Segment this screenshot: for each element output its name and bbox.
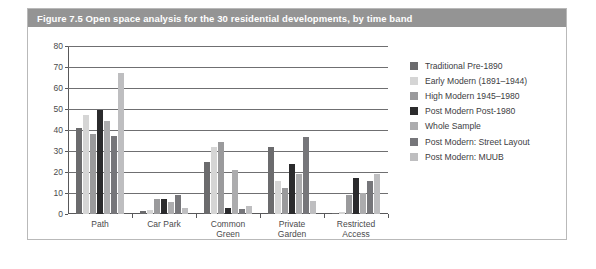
bar xyxy=(83,115,89,214)
bar xyxy=(104,121,110,214)
legend-item: Traditional Pre-1890 xyxy=(410,58,560,73)
legend-item: Early Modern (1891–1944) xyxy=(410,73,560,88)
bar xyxy=(367,181,373,214)
y-tick-label: 40 xyxy=(54,125,63,135)
bar-group xyxy=(324,46,388,214)
legend-item: High Modern 1945–1980 xyxy=(410,88,560,103)
bar-group xyxy=(132,46,196,214)
x-tick-mark xyxy=(196,214,197,218)
x-tick-mark xyxy=(388,214,389,218)
legend-swatch-icon xyxy=(410,138,418,146)
bar xyxy=(246,206,252,214)
y-tick-label: 0 xyxy=(58,209,63,219)
figure-title: Figure 7.5 Open space analysis for the 3… xyxy=(28,13,412,24)
bar xyxy=(218,142,224,214)
bar xyxy=(353,178,359,214)
legend-label: High Modern 1945–1980 xyxy=(425,91,520,101)
bar xyxy=(211,147,217,214)
x-tick-mark xyxy=(260,214,261,218)
chart-legend: Traditional Pre-1890Early Modern (1891–1… xyxy=(410,58,560,164)
legend-label: Traditional Pre-1890 xyxy=(425,61,503,71)
bar xyxy=(360,193,366,214)
bar xyxy=(147,210,153,214)
legend-label: Whole Sample xyxy=(425,121,481,131)
bar-group xyxy=(68,46,132,214)
y-tick-label: 50 xyxy=(54,104,63,114)
bar xyxy=(111,136,117,214)
x-category-label: Private Garden xyxy=(257,219,327,239)
bar xyxy=(310,201,316,214)
legend-swatch-icon xyxy=(410,62,418,70)
bar xyxy=(154,199,160,214)
legend-item: Post Modern Post-1980 xyxy=(410,104,560,119)
bar xyxy=(76,128,82,214)
y-tick-label: 70 xyxy=(54,62,63,72)
bar xyxy=(90,134,96,214)
legend-item: Whole Sample xyxy=(410,119,560,134)
figure-container: Figure 7.5 Open space analysis for the 3… xyxy=(27,8,567,240)
bar-group xyxy=(196,46,260,214)
bar xyxy=(332,213,338,214)
x-tick-mark xyxy=(132,214,133,218)
legend-swatch-icon xyxy=(410,153,418,161)
y-tick-label: 20 xyxy=(54,167,63,177)
x-category-label: Car Park xyxy=(129,219,199,229)
bar xyxy=(232,170,238,214)
legend-swatch-icon xyxy=(410,122,418,130)
legend-swatch-icon xyxy=(410,107,418,115)
y-tick-mark xyxy=(65,214,68,215)
x-category-label: Restricted Access xyxy=(321,219,391,239)
legend-label: Post Modern: MUUB xyxy=(425,152,504,162)
bar xyxy=(282,188,288,214)
bar xyxy=(161,199,167,214)
bar xyxy=(296,174,302,214)
bar xyxy=(140,211,146,214)
bar xyxy=(168,202,174,214)
y-tick-label: 10 xyxy=(54,188,63,198)
x-category-label: Path xyxy=(65,219,135,229)
bar xyxy=(346,195,352,214)
bar xyxy=(204,162,210,215)
legend-item: Post Modern: MUUB xyxy=(410,149,560,164)
bar xyxy=(175,195,181,214)
legend-label: Post Modern Post-1980 xyxy=(425,106,515,116)
chart-region: 01020304050607080 PathCar ParkCommon Gre… xyxy=(28,27,566,240)
bar xyxy=(225,208,231,214)
bar xyxy=(275,181,281,214)
bar xyxy=(268,147,274,214)
x-category-label: Common Green xyxy=(193,219,263,239)
bar xyxy=(118,73,124,214)
bar xyxy=(239,209,245,214)
bar xyxy=(339,212,345,214)
legend-label: Early Modern (1891–1944) xyxy=(425,76,527,86)
bar xyxy=(289,164,295,214)
bars-layer xyxy=(68,46,388,214)
plot-area: 01020304050607080 PathCar ParkCommon Gre… xyxy=(68,46,388,214)
legend-swatch-icon xyxy=(410,77,418,85)
bar xyxy=(374,174,380,214)
x-tick-mark xyxy=(324,214,325,218)
bar xyxy=(303,137,309,214)
y-tick-label: 30 xyxy=(54,146,63,156)
y-tick-label: 60 xyxy=(54,83,63,93)
bar xyxy=(182,208,188,214)
figure-title-bar: Figure 7.5 Open space analysis for the 3… xyxy=(28,9,566,27)
bar-group xyxy=(260,46,324,214)
legend-swatch-icon xyxy=(410,92,418,100)
legend-label: Post Modern: Street Layout xyxy=(425,137,530,147)
y-tick-label: 80 xyxy=(54,41,63,51)
legend-item: Post Modern: Street Layout xyxy=(410,134,560,149)
bar xyxy=(97,110,103,214)
